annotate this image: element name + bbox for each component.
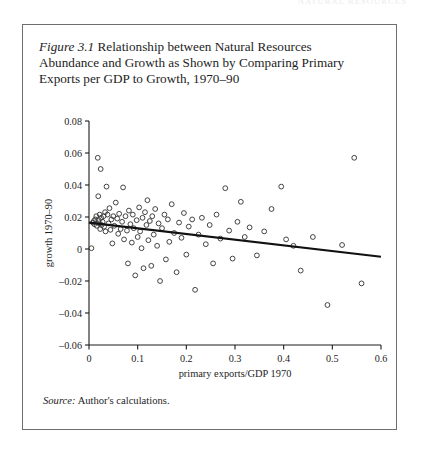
x-axis-tick-label: 0.1 <box>131 353 144 364</box>
scatter-point <box>141 266 146 271</box>
scatter-point <box>156 221 161 226</box>
scatter-point <box>127 208 132 213</box>
scatter-point <box>167 239 172 244</box>
scatter-point <box>120 219 125 224</box>
figure-box: Figure 3.1 Relationship between Natural … <box>22 24 397 430</box>
scatter-point <box>143 210 148 215</box>
source-text: Author's calculations. <box>76 395 170 406</box>
scatter-point <box>298 268 303 273</box>
scatter-point <box>116 231 121 236</box>
scatter-point <box>107 206 112 211</box>
scatter-point <box>122 237 127 242</box>
scatter-point <box>121 185 126 190</box>
scatter-point <box>211 261 216 266</box>
scatter-point <box>182 211 187 216</box>
scatter-point <box>110 241 115 246</box>
scatter-point <box>186 224 191 229</box>
scatter-point <box>129 240 134 245</box>
scatter-point <box>144 223 149 228</box>
scatter-point <box>340 243 345 248</box>
scatter-point <box>103 229 108 234</box>
scatter-point <box>238 199 243 204</box>
source-label: Source: <box>43 395 76 406</box>
trendline-layer <box>89 223 381 257</box>
scatter-point <box>269 207 274 212</box>
y-axis-tick-label: 0 <box>77 244 82 255</box>
scatter-point <box>89 246 94 251</box>
scatter-point <box>149 263 154 268</box>
scatter-point <box>133 273 138 278</box>
scatter-point <box>223 186 228 191</box>
scatter-point <box>177 220 182 225</box>
scatter-point <box>145 198 150 203</box>
scatter-point <box>359 281 364 286</box>
scatter-point <box>153 207 158 212</box>
scatter-point <box>190 217 195 222</box>
scatter-point <box>137 205 142 210</box>
scatter-point <box>139 246 144 251</box>
scatter-point <box>126 261 131 266</box>
source-note: Source: Author's calculations. <box>43 395 170 406</box>
x-axis-tick-label: 0 <box>86 353 91 364</box>
scatter-point <box>108 227 113 232</box>
scatter-point <box>262 229 267 234</box>
scatter-point <box>162 212 167 217</box>
running-header-text: NATURAL RESOURCES <box>298 0 407 6</box>
scatter-point <box>128 222 133 227</box>
scatter-point <box>147 219 152 224</box>
scatter-point <box>169 202 174 207</box>
scatter-point <box>242 235 247 240</box>
y-axis-tick-label: 0.06 <box>64 148 82 159</box>
scatter-point <box>310 235 315 240</box>
y-axis-tick-label: –0.04 <box>58 308 82 319</box>
scatter-point <box>227 228 232 233</box>
scatter-point <box>151 232 156 237</box>
y-axis-tick-label: –0.02 <box>58 276 82 287</box>
scatter-points-layer <box>89 155 364 307</box>
scatter-point <box>155 243 160 248</box>
x-axis-title: primary exports/GDP 1970 <box>179 368 292 379</box>
scatter-point <box>165 217 170 222</box>
scatter-point <box>150 214 155 219</box>
scatter-point <box>115 216 120 221</box>
scatter-point <box>174 270 179 275</box>
scatter-point <box>146 238 151 243</box>
scatter-point <box>207 223 212 228</box>
scatter-point <box>140 215 145 220</box>
x-axis-tick-label: 0.5 <box>326 353 339 364</box>
scatter-point <box>325 303 330 308</box>
axis-labels-layer: –0.06–0.04–0.0200.020.040.060.0800.10.20… <box>43 116 387 379</box>
scatter-point <box>235 219 240 224</box>
scatter-point <box>95 155 100 160</box>
scatter-point <box>214 212 219 217</box>
scatter-point <box>352 155 357 160</box>
scatter-plot-svg: –0.06–0.04–0.0200.020.040.060.0800.10.20… <box>23 25 398 431</box>
scatter-point <box>134 218 139 223</box>
y-axis-tick-label: 0.04 <box>64 180 82 191</box>
scatter-point <box>193 287 198 292</box>
scatter-point <box>98 167 103 172</box>
x-axis-tick-label: 0.2 <box>180 353 193 364</box>
scatter-point <box>230 256 235 261</box>
y-axis-tick-label: 0.08 <box>64 116 82 127</box>
scatter-point <box>135 235 140 240</box>
scatter-point <box>179 235 184 240</box>
scatter-point <box>247 225 252 230</box>
scatter-point <box>123 214 128 219</box>
scatter-point <box>104 184 109 189</box>
scatter-point <box>117 211 122 216</box>
scatter-point <box>130 212 135 217</box>
y-axis-tick-label: –0.06 <box>58 340 82 351</box>
x-axis-tick-label: 0.6 <box>375 353 388 364</box>
scatter-point <box>203 242 208 247</box>
scatter-point <box>158 279 163 284</box>
scatter-point <box>184 252 189 257</box>
scatter-point <box>284 237 289 242</box>
trendline <box>89 223 381 257</box>
x-axis-tick-label: 0.4 <box>277 353 290 364</box>
scatter-point <box>255 253 260 258</box>
scatter-point <box>113 200 118 205</box>
running-header: NATURAL RESOURCES <box>0 0 421 14</box>
scatter-point <box>163 257 168 262</box>
y-axis-title: growth 1970–90 <box>43 199 54 267</box>
